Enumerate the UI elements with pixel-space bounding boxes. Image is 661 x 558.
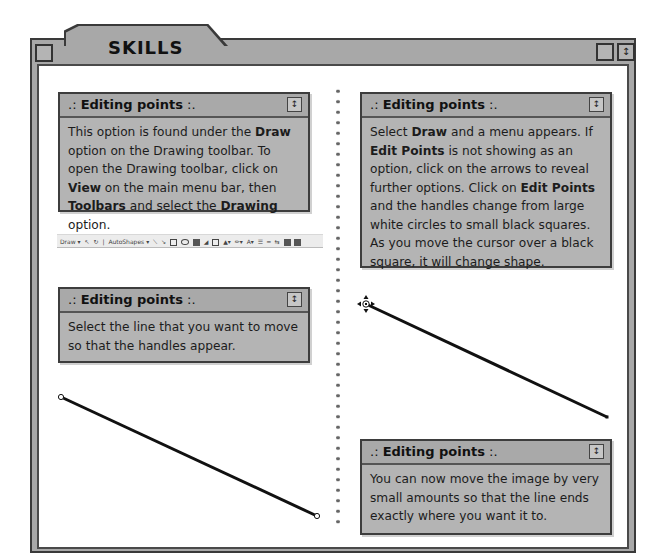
black-square-handle-icon[interactable] <box>606 416 609 419</box>
line-illustrations <box>0 0 661 558</box>
right-line-illustration[interactable] <box>357 295 609 419</box>
move-cursor-icon <box>357 295 375 313</box>
white-circle-handle-icon[interactable] <box>314 513 319 518</box>
left-line-illustration[interactable] <box>58 394 319 518</box>
white-circle-handle-icon[interactable] <box>58 394 63 399</box>
